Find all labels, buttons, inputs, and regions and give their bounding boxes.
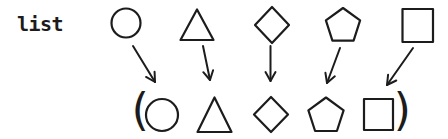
close-paren: ) (390, 84, 417, 135)
bottom-pentagon-shape (308, 98, 343, 132)
bottom-triangle-shape (198, 98, 232, 133)
bottom-diamond-shape (254, 97, 288, 132)
down-arrow-icon (387, 48, 413, 85)
top-triangle-shape (181, 10, 214, 41)
down-arrow-icon (133, 46, 155, 82)
down-arrow-icon (327, 48, 340, 83)
list-label: list (17, 12, 63, 36)
down-arrow-icon (203, 46, 210, 80)
list-mapping-diagram: list ( ) (0, 0, 448, 139)
bottom-square-shape (364, 99, 393, 130)
top-circle-shape (112, 9, 141, 38)
open-paren: ( (126, 84, 153, 135)
top-square-shape (403, 9, 434, 42)
mapping-arrows (133, 46, 413, 85)
top-shape-row (112, 7, 434, 43)
top-diamond-shape (255, 7, 289, 43)
top-pentagon-shape (326, 8, 360, 41)
bottom-shape-row: ( ) (126, 84, 416, 135)
diagram-canvas: list ( ) (0, 0, 448, 139)
